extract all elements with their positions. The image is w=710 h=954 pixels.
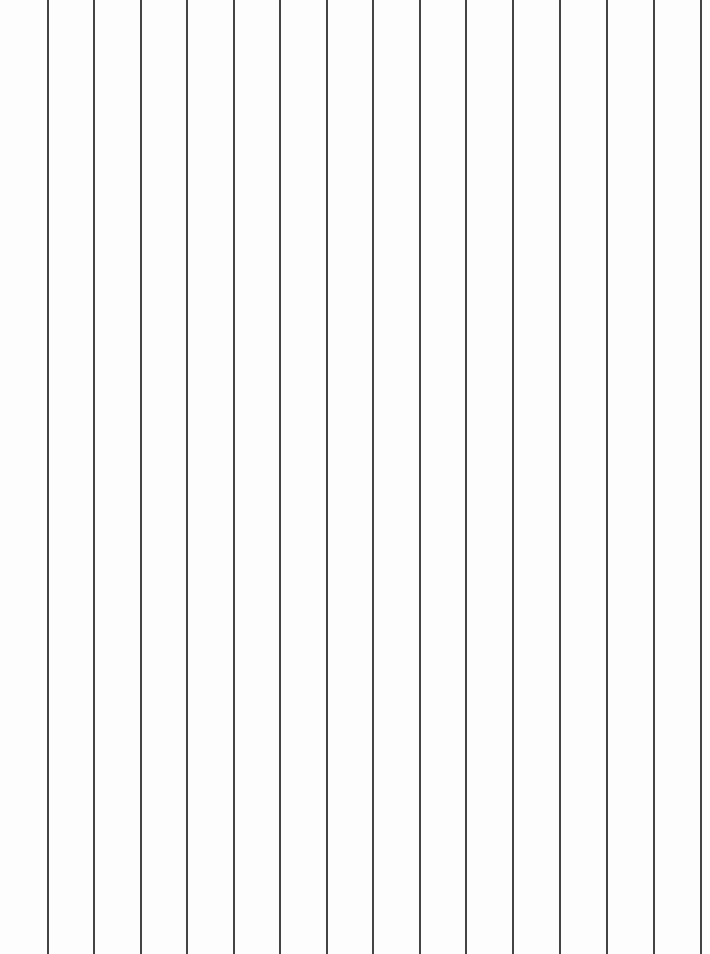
vertical-rule-line — [465, 0, 467, 954]
vertical-rule-line — [326, 0, 328, 954]
vertical-rule-line — [47, 0, 49, 954]
vertical-rule-line — [700, 0, 702, 954]
vertical-rule-line — [512, 0, 514, 954]
vertical-rule-line — [186, 0, 188, 954]
vertical-rule-line — [606, 0, 608, 954]
vertical-rule-line — [233, 0, 235, 954]
vertical-rule-line — [372, 0, 374, 954]
vertical-rule-line — [653, 0, 655, 954]
vertical-rule-line — [93, 0, 95, 954]
vertical-rule-line — [279, 0, 281, 954]
vertical-rule-line — [419, 0, 421, 954]
lined-paper — [0, 0, 710, 954]
vertical-rule-line — [559, 0, 561, 954]
vertical-rule-line — [140, 0, 142, 954]
